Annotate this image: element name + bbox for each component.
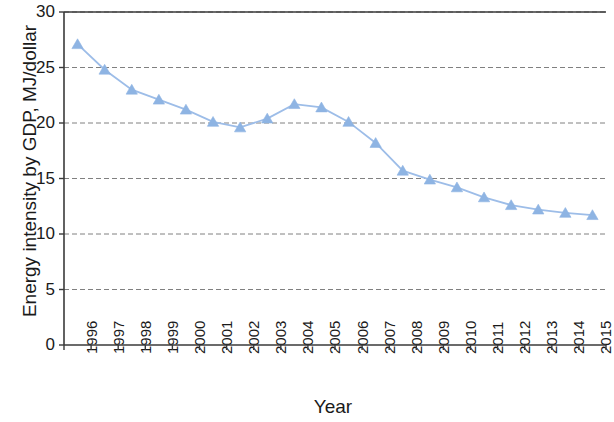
data-point-marker — [289, 99, 300, 109]
data-point-marker — [180, 104, 191, 114]
data-point-marker — [153, 94, 164, 104]
x-axis-title-wrap: Year — [0, 396, 610, 418]
x-axis-title: Year — [314, 396, 352, 418]
data-point-marker — [262, 113, 273, 123]
data-point-marker — [72, 39, 83, 49]
series-line — [78, 44, 593, 215]
data-point-marker — [207, 116, 218, 126]
data-series — [72, 39, 598, 220]
data-point-marker — [343, 116, 354, 126]
tick-marks — [59, 12, 606, 350]
data-point-marker — [478, 192, 489, 202]
gridlines — [64, 12, 606, 290]
